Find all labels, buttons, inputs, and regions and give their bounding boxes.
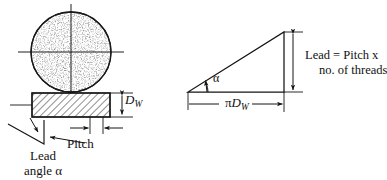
diameter-label: DW	[125, 92, 142, 110]
lead-angle-alpha: α	[55, 163, 62, 178]
pidw-label: πDW	[222, 95, 252, 113]
pitch-extension-lines	[90, 117, 103, 134]
pi-symbol: π	[225, 95, 232, 110]
helix-triangle	[188, 32, 284, 92]
lead-angle-line1: Lead	[30, 148, 56, 163]
thread-bar	[32, 93, 110, 117]
lead-equation-line2: no. of threads	[305, 63, 387, 78]
lead-dimension	[284, 32, 303, 92]
lead-angle-label: Leadangle α	[12, 148, 74, 179]
pidw-subscript: W	[241, 102, 249, 112]
diameter-subscript: W	[134, 99, 142, 109]
lead-equation-label: Lead = Pitch xno. of threads	[305, 48, 387, 78]
diameter-symbol: D	[125, 92, 134, 107]
triangle-alpha-label: α	[213, 71, 219, 85]
lead-equation-line1: Lead = Pitch x	[305, 48, 378, 62]
pidw-d-symbol: D	[232, 95, 241, 110]
left-view-group	[8, 4, 133, 144]
lead-angle-line2: angle	[24, 163, 52, 178]
